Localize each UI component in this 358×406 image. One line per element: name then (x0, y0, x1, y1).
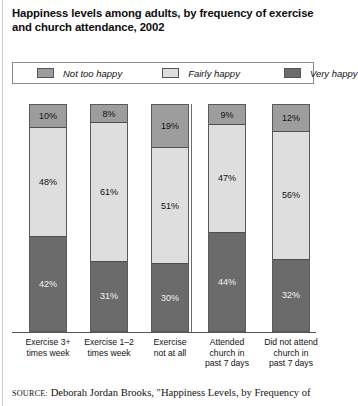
x-label-line: Did not attend (254, 337, 328, 348)
x-label-line: past 7 days (190, 358, 264, 369)
segment-not-too-happy: 10% (30, 105, 66, 128)
segment-not-too-happy: 19% (152, 105, 188, 148)
legend-label-very-happy: Very happy (310, 68, 358, 79)
x-label-line: Attended (190, 337, 264, 348)
segment-fairly-happy: 48% (30, 128, 66, 236)
segment-not-too-happy: 9% (209, 105, 245, 125)
page-edge-line (2, 0, 3, 406)
legend-item-not-too-happy: Not too happy (37, 68, 122, 79)
segment-very-happy: 32% (273, 259, 309, 331)
source-note: SOURCE: Deborah Jordan Brooks, "Happines… (12, 386, 322, 400)
x-label-line: church in (254, 348, 328, 359)
source-label: SOURCE: (12, 389, 48, 398)
x-label-line: church in (190, 348, 264, 359)
bar-exercise-not-at-all: 19% 51% 30% (151, 104, 189, 332)
legend-swatch-not-too-happy (37, 68, 54, 78)
segment-fairly-happy: 61% (91, 123, 127, 261)
x-label-line: past 7 days (254, 358, 328, 369)
x-axis-line (12, 332, 316, 333)
segment-very-happy: 30% (152, 263, 188, 331)
bar-did-not-attend-church: 12% 56% 32% (272, 104, 310, 332)
segment-fairly-happy: 47% (209, 125, 245, 231)
segment-fairly-happy: 51% (152, 148, 188, 263)
chart-title: Happiness levels among adults, by freque… (12, 6, 318, 34)
legend-label-not-too-happy: Not too happy (63, 68, 122, 79)
segment-not-too-happy: 12% (273, 105, 309, 132)
source-text: Deborah Jordan Brooks, "Happiness Levels… (51, 387, 311, 398)
segment-very-happy: 42% (30, 236, 66, 331)
legend-label-fairly-happy: Fairly happy (188, 68, 240, 79)
x-label-did-not-attend-church: Did not attend church in past 7 days (254, 337, 328, 369)
bar-exercise-1-2: 8% 61% 31% (90, 104, 128, 332)
legend-item-very-happy: Very happy (284, 68, 358, 79)
bar-exercise-3-plus: 10% 48% 42% (29, 104, 67, 332)
legend-swatch-fairly-happy (162, 68, 179, 78)
segment-fairly-happy: 56% (273, 132, 309, 259)
plot-area: 10% 48% 42% 8% 61% 31% 19% 51% 30% 9% 47… (12, 104, 316, 332)
legend-item-fairly-happy: Fairly happy (162, 68, 240, 79)
segment-not-too-happy: 8% (91, 105, 127, 123)
x-axis-labels: Exercise 3+ times week Exercise 1–2 time… (12, 337, 316, 377)
x-label-attended-church: Attended church in past 7 days (190, 337, 264, 369)
bar-attended-church: 9% 47% 44% (208, 104, 246, 332)
group-divider (191, 104, 192, 332)
chart-legend: Not too happy Fairly happy Very happy (12, 62, 314, 84)
legend-swatch-very-happy (284, 68, 301, 78)
segment-very-happy: 31% (91, 261, 127, 331)
segment-very-happy: 44% (209, 232, 245, 331)
